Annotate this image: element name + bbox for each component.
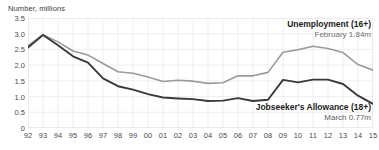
- annotation-jobseekers-allowance: Jobseeker's Allowance (18+) March 0.77m: [256, 103, 371, 122]
- annotation-unemployment-title: Unemployment (16+): [287, 20, 371, 30]
- annotation-unemployment-value: February 1.84m: [287, 30, 371, 40]
- x-tick-label: 98: [114, 131, 122, 140]
- x-tick-label: 01: [159, 131, 167, 140]
- x-tick-label: 93: [39, 131, 47, 140]
- x-tick-label: 04: [204, 131, 212, 140]
- y-tick-label: 1.5: [15, 76, 25, 85]
- x-tick-label: 95: [69, 131, 77, 140]
- y-axis-tick-labels: 00.51.01.52.02.53.03.5: [0, 18, 25, 128]
- y-tick-label: 1.0: [15, 92, 25, 101]
- unemployment-chart: Number, millions 00.51.01.52.02.53.03.5 …: [0, 0, 379, 150]
- series-line-jobseekers-allowance: [28, 35, 373, 104]
- x-tick-label: 99: [129, 131, 137, 140]
- y-axis-title: Number, millions: [8, 4, 65, 13]
- x-tick-label: 05: [219, 131, 227, 140]
- y-tick-label: 3.5: [15, 14, 25, 23]
- x-tick-label: 03: [189, 131, 197, 140]
- x-tick-label: 11: [309, 131, 317, 140]
- x-tick-label: 96: [84, 131, 92, 140]
- annotation-unemployment: Unemployment (16+) February 1.84m: [287, 20, 371, 39]
- x-tick-label: 10: [294, 131, 302, 140]
- x-axis-tick-labels: 9293949596979899000102030405060708091011…: [28, 131, 373, 145]
- y-tick-label: 3.0: [15, 29, 25, 38]
- x-tick-label: 08: [264, 131, 272, 140]
- x-tick-label: 92: [24, 131, 32, 140]
- x-tick-label: 14: [354, 131, 362, 140]
- x-tick-label: 13: [339, 131, 347, 140]
- x-tick-label: 02: [174, 131, 182, 140]
- x-tick-label: 09: [279, 131, 287, 140]
- x-tick-label: 94: [54, 131, 62, 140]
- x-tick-label: 00: [144, 131, 152, 140]
- x-tick-label: 12: [324, 131, 332, 140]
- x-tick-label: 15: [369, 131, 377, 140]
- x-tick-label: 06: [234, 131, 242, 140]
- y-tick-label: 2.0: [15, 61, 25, 70]
- annotation-jsa-title: Jobseeker's Allowance (18+): [256, 103, 371, 113]
- y-tick-label: 0.5: [15, 108, 25, 117]
- annotation-jsa-value: March 0.77m: [256, 113, 371, 123]
- y-tick-label: 2.5: [15, 45, 25, 54]
- x-tick-label: 07: [249, 131, 257, 140]
- x-tick-label: 97: [99, 131, 107, 140]
